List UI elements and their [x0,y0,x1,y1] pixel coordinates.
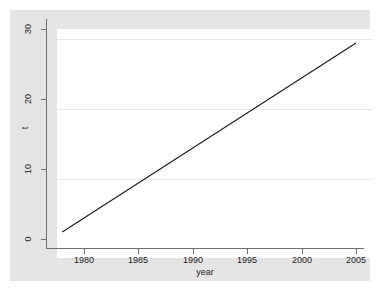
x-tick-label-1980: 1980 [64,255,104,265]
gridline-y-10 [57,179,373,180]
y-tick-20 [41,99,46,100]
x-tick-1995 [247,249,248,254]
y-tick-0 [41,239,46,240]
x-tick-label-2000: 2000 [282,255,322,265]
y-tick-label-20: 20 [23,88,33,110]
x-tick-1990 [193,249,194,254]
x-tick-2000 [302,249,303,254]
gridline-y-20 [57,109,373,110]
plot-area [57,29,373,258]
y-axis-line [46,19,47,249]
y-tick-label-10: 10 [23,158,33,180]
graph-region [10,10,370,281]
x-tick-1985 [138,249,139,254]
y-tick-label-0: 0 [23,228,33,250]
x-tick-label-2005: 2005 [336,255,376,265]
chart-screenshot: 30 20 10 0 t 1980 1985 1990 1995 2000 20… [0,0,378,290]
y-tick-label-30: 30 [23,18,33,40]
y-axis-title: t [20,117,30,139]
x-axis-title: year [47,267,363,277]
x-tick-label-1985: 1985 [118,255,158,265]
y-tick-30 [41,29,46,30]
gridline-y-30 [57,39,373,40]
x-tick-2005 [356,249,357,254]
x-tick-label-1995: 1995 [227,255,267,265]
x-tick-1980 [84,249,85,254]
x-tick-label-1990: 1990 [173,255,213,265]
x-axis-line [47,248,364,249]
y-tick-10 [41,169,46,170]
